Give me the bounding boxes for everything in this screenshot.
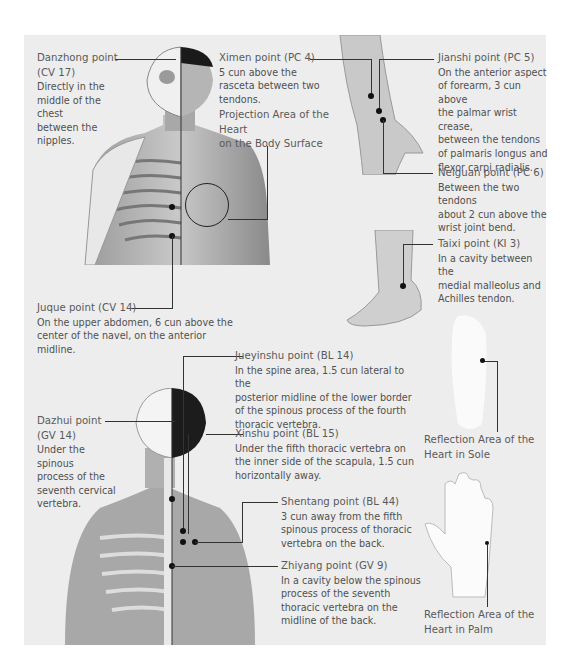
neiguan-name: Neiguan point (PC 6)	[438, 166, 548, 181]
heart-projection-circle	[185, 183, 229, 227]
label-jueyinshu: Jueyinshu point (BL 14) In the spine are…	[235, 349, 415, 431]
zhiyang-leader	[172, 566, 278, 567]
label-dazhui: Dazhui point (GV 14) Under the spinous p…	[37, 414, 117, 511]
danzhong-code: (CV 17)	[37, 66, 127, 81]
projection-leader-v	[267, 146, 268, 220]
label-zhiyang: Zhiyang point (GV 9) In a cavity below t…	[281, 559, 421, 628]
juque-name: Juque point (CV 14)	[37, 301, 237, 316]
jianshi-leader-h	[379, 59, 434, 60]
ximen-name: Ximen point (PC 4)	[219, 51, 339, 66]
sole-leader-v	[497, 361, 498, 432]
label-ximen: Ximen point (PC 4) 5 cun above the rasce…	[219, 51, 339, 152]
projection-title-2: on the Body Surface	[219, 137, 339, 152]
projection-title-1: Projection Area of the Heart	[219, 108, 339, 137]
taixi-leader-h	[403, 244, 433, 245]
dazhui-code: (GV 14)	[37, 429, 117, 444]
ximen-dot	[368, 93, 374, 99]
shentang-name: Shentang point (BL 44)	[281, 495, 421, 510]
taixi-leader-v	[403, 244, 404, 284]
xinshu-dot	[180, 539, 186, 545]
jueyinshu-leader-v	[183, 356, 184, 531]
label-palm-reflection: Reflection Area of the Heart in Palm	[424, 608, 544, 637]
danzhong-name: Danzhong point	[37, 51, 127, 66]
xinshu-leader-v	[188, 434, 189, 534]
zhiyang-name: Zhiyang point (GV 9)	[281, 559, 421, 574]
jueyinshu-name: Jueyinshu point (BL 14)	[235, 349, 415, 364]
label-shentang: Shentang point (BL 44) 3 cun away from t…	[281, 495, 421, 550]
ankle-foot-figure	[345, 230, 425, 330]
taixi-dot	[400, 283, 406, 289]
neiguan-leader-v	[383, 120, 384, 174]
jueyinshu-dot	[180, 528, 186, 534]
jianshi-leader-v	[379, 59, 380, 109]
palm-leader-v	[487, 544, 488, 607]
taixi-name: Taixi point (KI 3)	[438, 237, 548, 252]
shentang-leader-h1	[195, 542, 243, 543]
label-xinshu: Xinshu point (BL 15) Under the fifth tho…	[235, 427, 415, 482]
label-taixi: Taixi point (KI 3) In a cavity between t…	[438, 237, 548, 306]
jianshi-name: Jianshi point (PC 5)	[438, 51, 548, 66]
label-sole-reflection: Reflection Area of the Heart in Sole	[424, 433, 544, 462]
shentang-leader-v	[242, 502, 243, 543]
sole-leader-h	[484, 361, 498, 362]
jianshi-dot	[376, 108, 382, 114]
ximen-leader-v	[371, 59, 372, 94]
palm-figure	[423, 472, 503, 602]
danzhong-dot	[169, 204, 175, 210]
label-juque: Juque point (CV 14) On the upper abdomen…	[37, 301, 237, 356]
dazhui-name: Dazhui point	[37, 414, 117, 429]
shentang-leader-h2	[242, 502, 278, 503]
dazhui-dot	[169, 496, 175, 502]
xinshu-name: Xinshu point (BL 15)	[235, 427, 415, 442]
forearm-figure	[335, 35, 425, 175]
projection-leader-h	[228, 219, 268, 220]
juque-leader-v	[172, 236, 173, 309]
label-danzhong: Danzhong point (CV 17) Directly in the m…	[37, 51, 127, 148]
sole-heart-dot	[480, 358, 485, 363]
label-jianshi: Jianshi point (PC 5) On the anterior asp…	[438, 51, 548, 174]
label-neiguan: Neiguan point (PC 6) Between the two ten…	[438, 166, 548, 235]
neiguan-leader-h	[383, 173, 433, 174]
sole-figure	[448, 314, 490, 432]
